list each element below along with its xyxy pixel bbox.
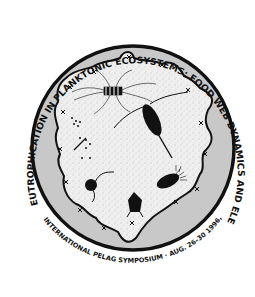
symposium-logo: EUTROPHICATION IN PLANKTONIC ECOSYSTEMS:… — [0, 0, 255, 297]
